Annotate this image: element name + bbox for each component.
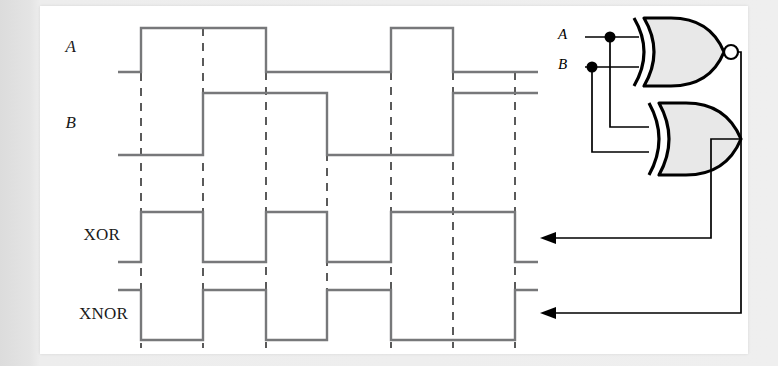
wire-xnor-output bbox=[552, 52, 741, 313]
xnor-gate[interactable] bbox=[634, 18, 738, 86]
circuit-input-label-b: B bbox=[558, 56, 567, 73]
arrowhead-to-xnor-waveform bbox=[540, 307, 556, 319]
waveform-b bbox=[118, 93, 538, 155]
xnor-gate-output-bubble bbox=[724, 45, 738, 59]
wire-b-to-xor bbox=[592, 67, 649, 152]
signal-label-xor: XOR bbox=[50, 225, 120, 245]
xor-gate-input-arc bbox=[649, 103, 659, 175]
xnor-gate-input-arc bbox=[634, 18, 644, 86]
logic-circuit bbox=[540, 18, 741, 319]
arrowhead-to-xor-waveform bbox=[540, 232, 556, 244]
waveform-xnor bbox=[118, 290, 538, 340]
figure-root: ABXORXNOR AB bbox=[0, 0, 778, 366]
waveform-a bbox=[118, 28, 538, 72]
signal-label-xnor: XNOR bbox=[58, 304, 128, 324]
signal-label-b: B bbox=[6, 113, 76, 133]
waveform-xor bbox=[118, 212, 538, 262]
junction-dot-a bbox=[605, 32, 616, 43]
junction-dot-b bbox=[587, 62, 598, 73]
circuit-input-label-a: A bbox=[558, 26, 567, 43]
xnor-gate-body bbox=[644, 18, 724, 86]
signal-label-a: A bbox=[6, 37, 76, 57]
